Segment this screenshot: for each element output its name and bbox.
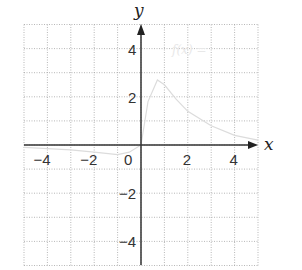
x-tick-label: 0 xyxy=(124,151,132,168)
x-axis-arrow-icon xyxy=(248,141,258,149)
x-tick-label: 2 xyxy=(183,151,191,168)
y-tick-label: −4 xyxy=(119,233,136,250)
function-label: f(x) = xyxy=(171,43,206,57)
x-tick-labels: −4−2024 xyxy=(33,151,238,168)
x-tick-label: 4 xyxy=(230,151,238,168)
function-graph: x y f(x) = −4−2024 42−2−4 xyxy=(0,0,302,270)
x-tick-label: −2 xyxy=(80,151,97,168)
y-axis-arrow-icon xyxy=(137,24,145,35)
x-axis-label: x xyxy=(264,134,274,154)
x-tick-label: −4 xyxy=(33,151,50,168)
y-tick-label: 2 xyxy=(128,89,136,106)
y-tick-label: 4 xyxy=(128,41,136,58)
y-tick-label: −2 xyxy=(119,185,136,202)
y-axis-label: y xyxy=(133,0,144,20)
